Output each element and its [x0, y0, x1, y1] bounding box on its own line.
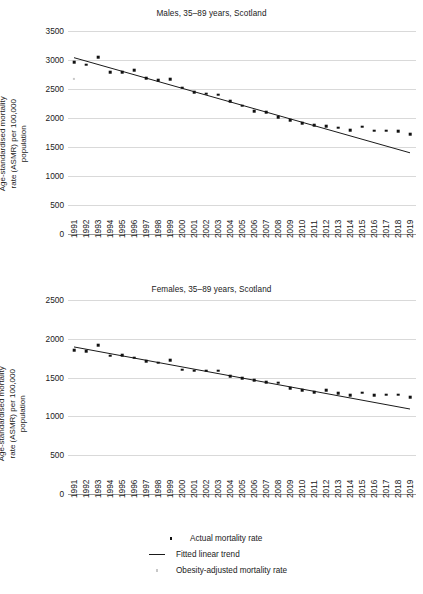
- plot-area-females: 0500100015002000250019911992199319941995…: [68, 300, 416, 494]
- actual-mortality-data-point: [313, 124, 316, 127]
- actual-mortality-data-point: [85, 350, 88, 353]
- actual-mortality-data-point: [301, 122, 304, 125]
- y-axis-tick-label: 2500: [46, 295, 64, 305]
- actual-mortality-data-point: [385, 393, 388, 396]
- actual-mortality-data-point: [397, 393, 400, 396]
- legend-label-actual: Actual mortality rate: [190, 534, 262, 543]
- actual-mortality-data-point: [409, 133, 412, 136]
- y-axis-tick-label: 1000: [46, 411, 64, 421]
- actual-mortality-data-point: [373, 129, 376, 132]
- actual-mortality-data-point: [265, 381, 268, 384]
- actual-mortality-data-point: [193, 369, 196, 372]
- actual-mortality-data-point: [181, 87, 184, 90]
- actual-mortality-data-point: [373, 394, 376, 397]
- actual-mortality-data-point: [313, 391, 316, 394]
- filled-square-marker-icon: [158, 537, 184, 540]
- actual-mortality-data-point: [169, 359, 172, 362]
- actual-mortality-data-point: [301, 389, 304, 392]
- actual-mortality-data-point: [133, 357, 136, 360]
- y-axis-label-females: Age-standardised mortality rate (ASMR) p…: [0, 353, 29, 475]
- y-axis-label-males: Age-standardised mortality rate (ASMR) p…: [0, 81, 29, 206]
- chart-title-males: Males, 35–89 years, Scotland: [0, 9, 423, 18]
- chart-panel-males: Males, 35–89 years, Scotland Age-standar…: [0, 0, 423, 292]
- fitted-linear-trend-line: [68, 31, 416, 234]
- y-axis-tick-label: 500: [50, 450, 64, 460]
- actual-mortality-data-point: [253, 379, 256, 382]
- actual-mortality-data-point: [217, 94, 220, 97]
- legend-item-actual: Actual mortality rate: [158, 534, 262, 543]
- actual-mortality-data-point: [349, 394, 352, 397]
- actual-mortality-data-point: [229, 100, 232, 103]
- actual-mortality-data-point: [121, 354, 124, 357]
- legend-label-trend: Fitted linear trend: [176, 550, 240, 559]
- y-axis-tick-label: 3500: [46, 26, 64, 36]
- actual-mortality-data-point: [325, 389, 328, 392]
- actual-mortality-data-point: [181, 369, 184, 372]
- actual-mortality-data-point: [397, 130, 400, 133]
- actual-mortality-data-point: [109, 355, 112, 358]
- actual-mortality-data-point: [229, 375, 232, 378]
- y-axis-tick-label: 2000: [46, 334, 64, 344]
- fitted-linear-trend-line: [68, 300, 416, 494]
- actual-mortality-data-point: [289, 119, 292, 122]
- y-axis-tick-label: 1500: [46, 142, 64, 152]
- actual-mortality-data-point: [385, 129, 388, 132]
- y-axis-tick-label: 1500: [46, 373, 64, 383]
- actual-mortality-data-point: [289, 387, 292, 390]
- actual-mortality-data-point: [121, 71, 124, 74]
- actual-mortality-data-point: [265, 111, 268, 114]
- chart-panel-females: Females, 35–89 years, Scotland Age-stand…: [0, 276, 423, 521]
- actual-mortality-data-point: [145, 360, 148, 363]
- actual-mortality-data-point: [325, 125, 328, 128]
- actual-mortality-data-point: [109, 71, 112, 74]
- y-axis-tick-label: 2500: [46, 84, 64, 94]
- actual-mortality-data-point: [205, 92, 208, 95]
- actual-mortality-data-point: [97, 56, 100, 59]
- actual-mortality-data-point: [241, 377, 244, 380]
- y-axis-tick-label: 3000: [46, 55, 64, 65]
- legend-item-trend: Fitted linear trend: [144, 550, 240, 559]
- plot-area-males: 0500100015002000250030003500199119921993…: [68, 31, 416, 234]
- legend-label-obesity: Obesity-adjusted mortality rate: [176, 566, 287, 575]
- y-axis-tick-label: 0: [59, 229, 64, 239]
- obesity-adjusted-data-point: [73, 77, 75, 79]
- actual-mortality-data-point: [277, 381, 280, 384]
- actual-mortality-data-point: [277, 116, 280, 119]
- actual-mortality-data-point: [157, 79, 160, 82]
- actual-mortality-data-point: [73, 349, 76, 352]
- actual-mortality-data-point: [241, 105, 244, 108]
- actual-mortality-data-point: [409, 396, 412, 399]
- actual-mortality-data-point: [169, 78, 172, 81]
- solid-line-marker-icon: [144, 554, 170, 555]
- y-axis-tick-label: 1000: [46, 171, 64, 181]
- mortality-trend-figure: Males, 35–89 years, Scotland Age-standar…: [0, 0, 423, 594]
- actual-mortality-data-point: [217, 369, 220, 372]
- actual-mortality-data-point: [205, 369, 208, 372]
- actual-mortality-data-point: [97, 344, 100, 347]
- light-square-marker-icon: [144, 569, 170, 572]
- actual-mortality-data-point: [337, 392, 340, 395]
- actual-mortality-data-point: [145, 77, 148, 80]
- actual-mortality-data-point: [253, 110, 256, 113]
- actual-mortality-data-point: [361, 391, 364, 394]
- actual-mortality-data-point: [133, 69, 136, 72]
- actual-mortality-data-point: [157, 362, 160, 365]
- actual-mortality-data-point: [73, 61, 76, 64]
- y-axis-tick-label: 500: [50, 200, 64, 210]
- actual-mortality-data-point: [361, 125, 364, 128]
- actual-mortality-data-point: [85, 63, 88, 66]
- legend-item-obesity: Obesity-adjusted mortality rate: [144, 566, 287, 575]
- actual-mortality-data-point: [349, 129, 352, 132]
- y-axis-tick-label: 0: [59, 489, 64, 499]
- actual-mortality-data-point: [337, 127, 340, 130]
- y-axis-tick-label: 2000: [46, 113, 64, 123]
- chart-title-females: Females, 35–89 years, Scotland: [0, 285, 423, 294]
- actual-mortality-data-point: [193, 91, 196, 94]
